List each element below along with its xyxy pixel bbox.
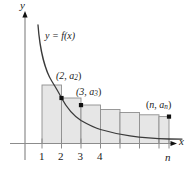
bars-group [42,85,169,144]
y-axis-label: y [20,0,25,11]
point-label-2-prefix: (2, [56,70,69,81]
x-tick-label-n: n [165,152,171,163]
integral-test-figure: y x y = f(x) (2, a2) (3, a3) (n, an) 1 2… [0,0,189,176]
point-label-2-suffix: ) [78,70,81,81]
x-tick-label-4: 4 [97,151,103,162]
x-tick-label-2: 2 [58,151,64,162]
point-label-2: (2, a2) [56,71,81,82]
point-dot-2 [59,96,63,100]
point-label-n: (n, an) [146,100,171,111]
point-label-n-suffix: ) [168,99,171,110]
point-label-3-suffix: ) [98,86,101,97]
point-dot-n [167,115,171,119]
point-label-3: (3, a3) [76,87,101,98]
bar-2 [62,98,82,144]
x-tick-label-3: 3 [78,151,84,162]
curve-equation-label: y = f(x) [45,31,75,41]
x-axis-label: x [179,136,184,147]
point-dot-3 [79,103,83,107]
x-tick-label-1: 1 [39,151,45,162]
bar-3 [81,105,101,144]
y-axis-arrow-icon [22,11,27,18]
bar-4 [101,110,121,144]
bar-6 [140,115,160,144]
bar-5 [120,113,140,144]
point-label-3-prefix: (3, [76,86,89,97]
x-axis-arrow-icon [171,141,178,146]
